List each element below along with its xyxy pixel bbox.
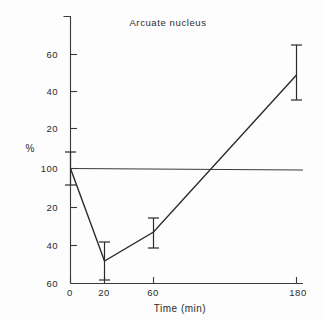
y-tick-label-40-upper: 40	[46, 86, 58, 97]
x-tick-label-20: 20	[98, 287, 110, 298]
y-tick-label-20-lower: 20	[46, 202, 58, 213]
y-tick-label-60-upper: 60	[46, 49, 58, 60]
x-tick-labels: 0 20 60 180	[67, 287, 307, 298]
y-tick-labels: 60 40 20 100 20 40 60	[41, 49, 58, 289]
chart-title: Arcuate nucleus	[129, 17, 206, 28]
y-tick-marks	[71, 55, 78, 246]
reference-line-100-percent	[71, 169, 304, 171]
y-axis-line	[64, 17, 71, 284]
y-tick-label-100: 100	[41, 163, 58, 174]
x-tick-label-60: 60	[147, 287, 159, 298]
y-axis-label: %	[26, 143, 35, 154]
y-tick-label-60-lower: 60	[46, 278, 58, 289]
axes-group	[64, 17, 304, 284]
y-tick-label-40-lower: 40	[46, 240, 58, 251]
figure-panel: 60 40 20 100 20 40 60 0 20 60 180	[0, 0, 322, 320]
error-bar-60min	[148, 218, 159, 248]
data-series-line	[71, 75, 297, 261]
error-bar-20min	[99, 242, 110, 280]
x-tick-label-180: 180	[289, 287, 306, 298]
error-bars-group	[65, 45, 302, 280]
x-tick-label-0: 0	[67, 287, 73, 298]
chart-svg: 60 40 20 100 20 40 60 0 20 60 180	[0, 0, 322, 320]
error-bar-180min	[291, 45, 302, 100]
x-axis-label: Time (min)	[154, 303, 206, 314]
y-tick-label-20-upper: 20	[46, 123, 58, 134]
